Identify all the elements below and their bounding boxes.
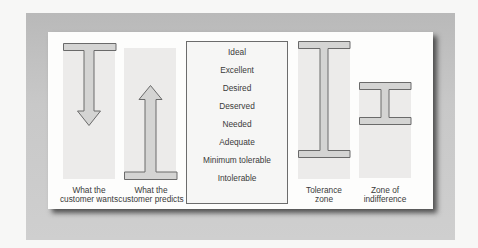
tolerance-zone-caption: Tolerance zone bbox=[294, 186, 354, 204]
level-minimum-tolerable: Minimum tolerable bbox=[187, 155, 287, 165]
level-adequate: Adequate bbox=[187, 137, 287, 147]
zone-of-indifference-i-beam-icon bbox=[358, 81, 414, 128]
caption-line-2: indifference bbox=[352, 195, 418, 204]
tolerance-zone-i-beam-icon bbox=[297, 40, 353, 160]
customer-wants-caption: What the customer wants bbox=[54, 186, 124, 204]
customer-predicts-caption: What the customer predicts bbox=[118, 186, 184, 204]
level-needed: Needed bbox=[187, 119, 287, 129]
expectation-levels-box: Ideal Excellent Desired Deserved Needed … bbox=[186, 41, 288, 204]
caption-line-2: customer predicts bbox=[118, 195, 184, 204]
caption-line-2: customer wants bbox=[54, 195, 124, 204]
level-deserved: Deserved bbox=[187, 101, 287, 111]
down-arrow-icon bbox=[62, 42, 118, 128]
level-excellent: Excellent bbox=[187, 65, 287, 75]
caption-line-2: zone bbox=[294, 195, 354, 204]
zone-of-indifference-caption: Zone of indifference bbox=[352, 186, 418, 204]
level-ideal: Ideal bbox=[187, 47, 287, 57]
up-arrow-icon bbox=[123, 84, 179, 182]
level-intolerable: Intolerable bbox=[187, 173, 287, 183]
level-desired: Desired bbox=[187, 83, 287, 93]
